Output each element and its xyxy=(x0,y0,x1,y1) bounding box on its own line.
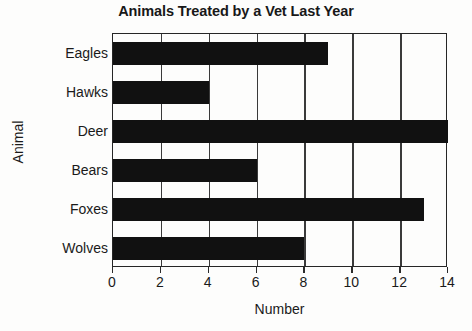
x-tick-mark xyxy=(447,267,448,273)
bar-chart: Animals Treated by a Vet Last Year Anima… xyxy=(0,0,472,331)
gridline xyxy=(400,34,401,266)
bar-row xyxy=(113,42,446,65)
bar-foxes xyxy=(113,198,424,221)
bar-row xyxy=(113,159,446,182)
y-tick-label-foxes: Foxes xyxy=(4,202,108,216)
x-tick-mark xyxy=(351,267,352,273)
gridline xyxy=(161,34,162,266)
plot-area xyxy=(112,33,447,267)
bar-row xyxy=(113,120,446,143)
gridline xyxy=(257,34,258,266)
x-tick-mark xyxy=(399,267,400,273)
bar-wolves xyxy=(113,237,304,260)
gridline xyxy=(209,34,210,266)
x-tick-label-12: 12 xyxy=(379,274,419,290)
x-tick-mark xyxy=(160,267,161,273)
x-tick-mark xyxy=(208,267,209,273)
y-tick-label-eagles: Eagles xyxy=(4,46,108,60)
x-tick-label-0: 0 xyxy=(92,274,132,290)
x-axis-ticks: 02468101214 xyxy=(112,267,447,301)
bar-eagles xyxy=(113,42,328,65)
y-tick-label-deer: Deer xyxy=(4,124,108,138)
y-tick-label-wolves: Wolves xyxy=(4,241,108,255)
gridline xyxy=(352,34,353,266)
x-tick-label-2: 2 xyxy=(140,274,180,290)
bar-row xyxy=(113,81,446,104)
bar-row xyxy=(113,237,446,260)
x-tick-label-6: 6 xyxy=(236,274,276,290)
bar-bears xyxy=(113,159,257,182)
chart-title: Animals Treated by a Vet Last Year xyxy=(0,3,472,19)
x-tick-mark xyxy=(303,267,304,273)
bar-deer xyxy=(113,120,448,143)
y-axis-tick-labels: EaglesHawksDeerBearsFoxesWolves xyxy=(0,33,108,267)
x-tick-mark xyxy=(256,267,257,273)
bar-hawks xyxy=(113,81,209,104)
y-tick-label-bears: Bears xyxy=(4,163,108,177)
x-tick-mark xyxy=(112,267,113,273)
bar-row xyxy=(113,198,446,221)
x-tick-label-10: 10 xyxy=(331,274,371,290)
y-tick-label-hawks: Hawks xyxy=(4,85,108,99)
x-tick-label-14: 14 xyxy=(427,274,467,290)
x-tick-label-8: 8 xyxy=(283,274,323,290)
gridline xyxy=(304,34,305,266)
x-tick-label-4: 4 xyxy=(188,274,228,290)
x-axis-title: Number xyxy=(112,301,447,317)
